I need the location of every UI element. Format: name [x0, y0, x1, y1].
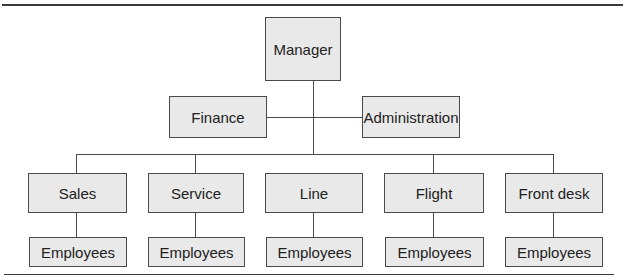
service-box: Service [148, 173, 244, 213]
flight-box: Flight [384, 173, 484, 213]
connector-service-employees [195, 212, 196, 237]
line-box: Line [265, 173, 363, 213]
finance-box: Finance [169, 96, 267, 138]
connector-front-desk-employees [553, 212, 554, 237]
connector-service [195, 154, 196, 173]
connector-staff [266, 117, 362, 118]
connector-front-desk [553, 154, 554, 173]
front-desk-employees-box: Employees [505, 237, 603, 267]
line-employees-box: Employees [266, 237, 363, 267]
sales-employees-box: Employees [29, 237, 127, 267]
connector-flight-employees [433, 212, 434, 237]
connector-line-employees [313, 212, 314, 237]
connector-manager-trunk [313, 81, 314, 155]
connector-departments [76, 154, 554, 155]
manager-box: Manager [265, 17, 341, 81]
service-employees-box: Employees [148, 237, 245, 267]
bottom-rule [4, 274, 614, 275]
connector-sales-employees [76, 212, 77, 237]
top-rule [2, 4, 623, 6]
sales-box: Sales [28, 173, 127, 213]
front-desk-box: Front desk [505, 173, 603, 213]
connector-flight [433, 154, 434, 173]
connector-sales [76, 154, 77, 173]
flight-employees-box: Employees [385, 237, 484, 267]
administration-box: Administration [362, 96, 460, 138]
